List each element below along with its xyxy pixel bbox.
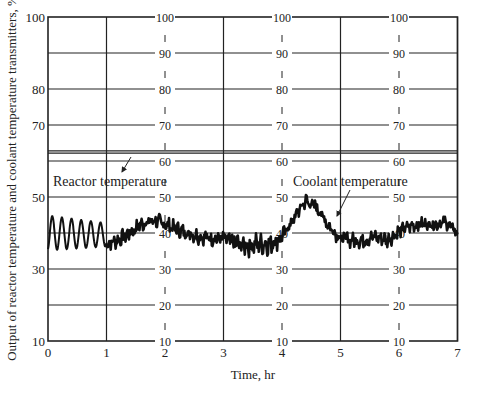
y-tick-label: 30	[32, 262, 45, 277]
inner-y-tick-label: 30	[393, 263, 405, 277]
inner-y-tick-label: 30	[276, 263, 288, 277]
y-tick-label: 100	[26, 10, 46, 25]
inner-y-tick-label: 20	[393, 299, 405, 313]
chart: 1020304050607080901001020304050607080901…	[0, 0, 478, 398]
inner-y-tick-label: 100	[273, 11, 291, 25]
y-tick-label: 10	[32, 334, 45, 349]
x-tick-label: 2	[162, 345, 169, 360]
coolant-temperature-label: Coolant temperature	[293, 174, 408, 189]
x-tick-label: 5	[337, 345, 344, 360]
x-tick-label: 7	[454, 345, 461, 360]
inner-y-tick-label: 90	[159, 47, 171, 61]
y-tick-label: 50	[32, 190, 45, 205]
x-tick-label: 0	[45, 345, 52, 360]
inner-y-tick-label: 70	[276, 119, 288, 133]
inner-y-tick-label: 20	[159, 299, 171, 313]
inner-y-tick-label: 30	[159, 263, 171, 277]
x-axis-title: Time, hr	[231, 367, 276, 382]
inner-y-tick-label: 80	[276, 83, 288, 97]
inner-y-tick-label: 50	[159, 191, 171, 205]
inner-y-tick-label: 80	[393, 83, 405, 97]
x-tick-label: 6	[396, 345, 403, 360]
inner-y-tick-label: 60	[393, 155, 405, 169]
inner-y-tick-label: 50	[276, 191, 288, 205]
reactor-arrow-icon	[122, 157, 131, 172]
inner-y-tick-label: 100	[156, 11, 174, 25]
inner-y-tick-label: 90	[276, 47, 288, 61]
inner-y-tick-label: 50	[393, 191, 405, 205]
coolant-arrow-icon	[337, 190, 350, 216]
inner-y-tick-label: 90	[393, 47, 405, 61]
y-tick-label: 80	[32, 82, 45, 97]
reactor-temperature-label: Reactor temperature	[53, 174, 167, 189]
x-tick-label: 4	[279, 345, 286, 360]
inner-y-tick-label: 60	[276, 155, 288, 169]
inner-y-tick-label: 20	[276, 299, 288, 313]
inner-y-tick-label: 80	[159, 83, 171, 97]
inner-y-tick-label: 100	[390, 11, 408, 25]
inner-y-tick-label: 70	[393, 119, 405, 133]
x-tick-label: 3	[220, 345, 227, 360]
y-axis-title: Output of reactor temperature and coolan…	[4, 0, 19, 361]
inner-y-tick-label: 70	[159, 119, 171, 133]
x-tick-label: 1	[103, 345, 110, 360]
inner-y-tick-label: 60	[159, 155, 171, 169]
y-tick-label: 70	[32, 118, 45, 133]
